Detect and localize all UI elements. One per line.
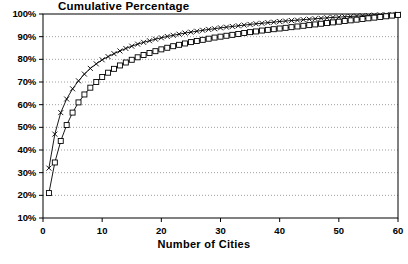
series-marker-square (141, 53, 146, 58)
series-marker-square (354, 17, 359, 22)
y-axis-tick-label: 20% (0, 189, 36, 200)
series-marker-cross (117, 48, 122, 53)
series-marker-square (171, 44, 176, 49)
series-marker-square (94, 80, 99, 85)
plot-frame (43, 14, 398, 218)
series-marker-square (106, 70, 111, 75)
series-marker-square (342, 19, 347, 24)
series-marker-cross (147, 38, 152, 43)
series-marker-square (188, 40, 193, 45)
series-marker-cross (129, 44, 134, 49)
series-marker-square (313, 22, 318, 27)
series-marker-square (301, 23, 306, 28)
x-axis-tick-label: 50 (324, 225, 354, 236)
series-marker-square (230, 32, 235, 37)
x-axis-tick-label: 0 (28, 225, 58, 236)
series-marker-cross (106, 54, 111, 59)
series-marker-square (165, 45, 170, 50)
series-marker-cross (70, 86, 75, 91)
x-axis-tick-label: 30 (206, 225, 236, 236)
series-marker-cross (64, 97, 69, 102)
series-marker-cross (100, 57, 105, 62)
series-marker-square (117, 63, 122, 68)
series-marker-square (123, 60, 128, 65)
series-marker-square (100, 75, 105, 80)
x-axis-title: Number of Cities (0, 238, 408, 250)
series-marker-square (177, 42, 182, 47)
series-marker-square (360, 16, 365, 21)
series-marker-cross (135, 42, 140, 47)
y-axis-tick-label: 30% (0, 167, 36, 178)
series-marker-square (200, 37, 205, 42)
series-marker-square (159, 47, 164, 52)
series-marker-square (348, 18, 353, 23)
series-marker-square (390, 13, 395, 18)
series-marker-square (242, 31, 247, 36)
series-marker-cross (58, 110, 63, 115)
series-marker-square (194, 38, 199, 43)
series-marker-square (112, 66, 117, 71)
series-marker-square (147, 50, 152, 55)
series-marker-square (336, 19, 341, 24)
series-marker-square (289, 25, 294, 30)
series-marker-square (58, 138, 63, 143)
series-marker-square (325, 21, 330, 26)
series-marker-square (277, 26, 282, 31)
series-marker-square (248, 30, 253, 35)
series-marker-cross (123, 46, 128, 51)
series-marker-square (82, 92, 87, 97)
x-axis-tick-label: 60 (383, 225, 408, 236)
series-marker-cross (88, 66, 93, 71)
y-axis-tick-label: 100% (0, 8, 36, 19)
series-marker-cross (76, 78, 81, 83)
y-axis-tick-label: 40% (0, 144, 36, 155)
y-axis-tick-label: 50% (0, 121, 36, 132)
series-marker-cross (82, 72, 87, 77)
series-marker-square (76, 100, 81, 105)
y-axis-tick-label: 80% (0, 53, 36, 64)
series-marker-square (218, 34, 223, 39)
series-marker-square (135, 55, 140, 60)
series-marker-square (224, 33, 229, 38)
y-axis-tick-label: 60% (0, 99, 36, 110)
series-marker-square (372, 15, 377, 20)
series-marker-square (283, 25, 288, 30)
series-marker-square (265, 27, 270, 32)
chart-container: Cumulative Percentage 10%20%30%40%50%60%… (0, 0, 408, 264)
series-marker-cross (112, 51, 117, 56)
series-marker-square (396, 12, 401, 17)
y-axis-tick-label: 70% (0, 76, 36, 87)
series-marker-square (307, 23, 312, 28)
series-marker-square (259, 28, 264, 33)
y-axis-tick-label: 10% (0, 212, 36, 223)
series-marker-square (52, 160, 57, 165)
series-marker-square (64, 123, 69, 128)
series-marker-cross (94, 61, 99, 66)
series-marker-square (254, 29, 259, 34)
y-axis-tick-label: 90% (0, 31, 36, 42)
series-marker-square (271, 27, 276, 32)
x-axis-tick-label: 20 (146, 225, 176, 236)
x-axis-tick-label: 10 (87, 225, 117, 236)
series-marker-square (330, 20, 335, 25)
series-marker-square (319, 21, 324, 26)
series-marker-square (384, 14, 389, 19)
series-marker-square (212, 35, 217, 40)
series-marker-square (129, 57, 134, 62)
series-marker-square (88, 85, 93, 90)
series-line (49, 15, 398, 193)
series-marker-square (366, 16, 371, 21)
series-marker-square (70, 110, 75, 115)
series-marker-cross (141, 40, 146, 45)
series-marker-square (153, 49, 158, 54)
series-line (49, 14, 398, 168)
series-marker-square (378, 14, 383, 19)
series-marker-square (183, 41, 188, 46)
series-marker-square (206, 36, 211, 41)
series-marker-square (295, 24, 300, 29)
series-marker-square (46, 191, 51, 196)
x-axis-tick-label: 40 (265, 225, 295, 236)
series-marker-square (236, 31, 241, 36)
